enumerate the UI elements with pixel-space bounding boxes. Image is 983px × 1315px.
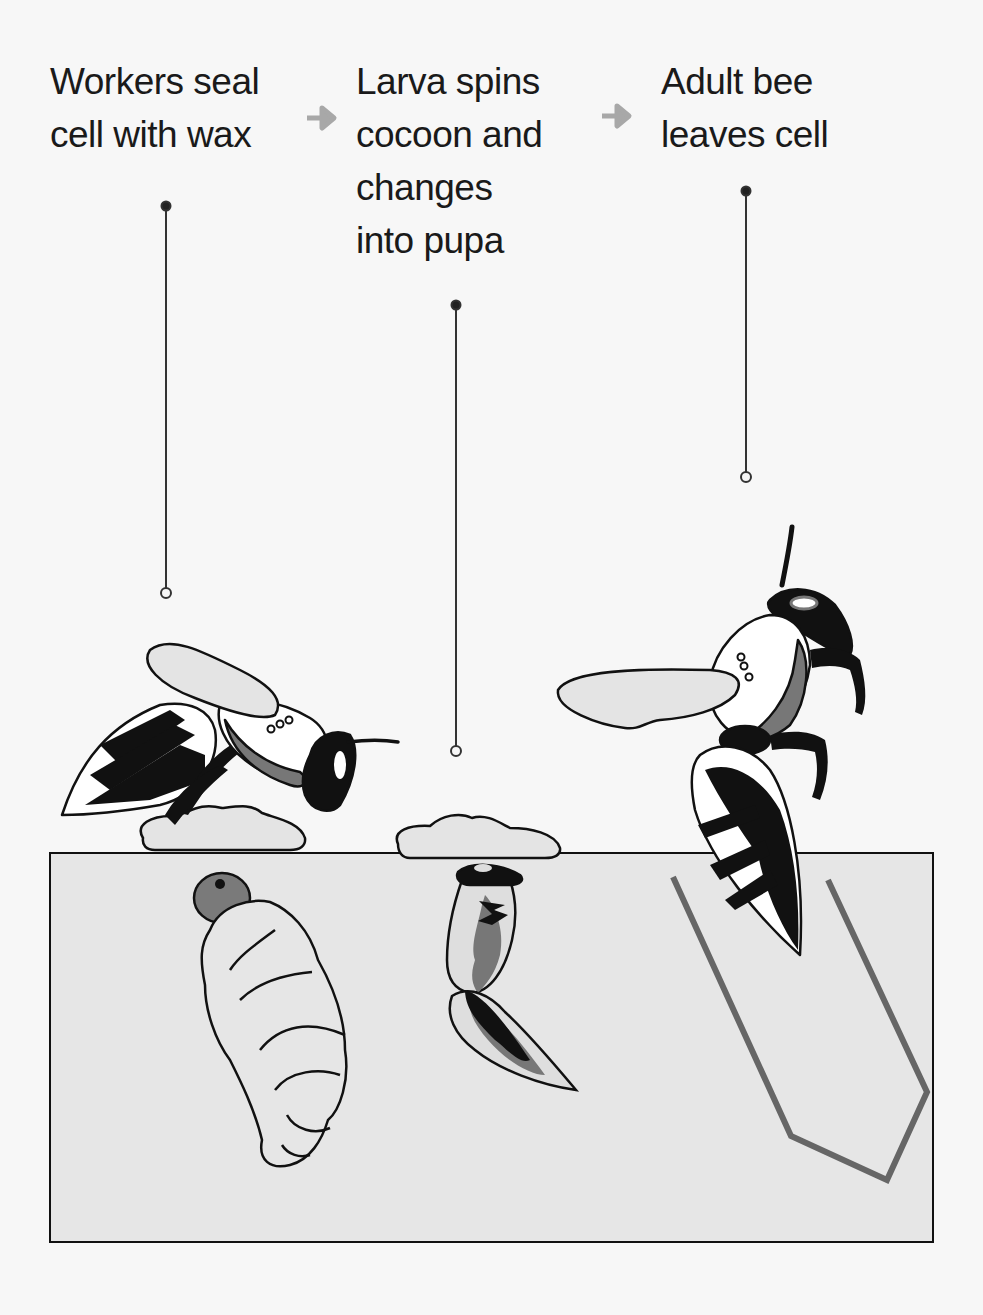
leader-line-seal xyxy=(161,202,171,599)
wax-cap-center xyxy=(397,815,560,858)
leader-line-adult xyxy=(741,187,751,483)
arrow-right-icon xyxy=(307,108,334,128)
worker-bee-illustration xyxy=(62,644,398,825)
arrow-right-icon xyxy=(602,106,629,126)
leader-line-pupa xyxy=(451,301,461,757)
bee-lifecycle-illustration xyxy=(0,0,983,1315)
wax-cap-left xyxy=(141,806,305,850)
